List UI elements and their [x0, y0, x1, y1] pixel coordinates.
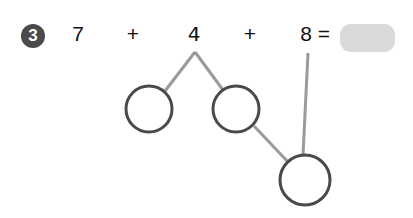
bond-circle-bottom[interactable]	[280, 155, 330, 205]
bond-circle-left[interactable]	[126, 86, 172, 132]
bond-line-left	[165, 52, 195, 91]
bond-line-middle-to-bottom	[254, 126, 289, 163]
math-problem: 3 7 + 4 + 8 =	[0, 0, 413, 218]
bond-line-eight-to-bottom	[303, 53, 308, 155]
bond-circle-middle[interactable]	[213, 86, 259, 132]
bond-line-right	[195, 52, 223, 90]
number-bond-diagram	[0, 0, 413, 218]
